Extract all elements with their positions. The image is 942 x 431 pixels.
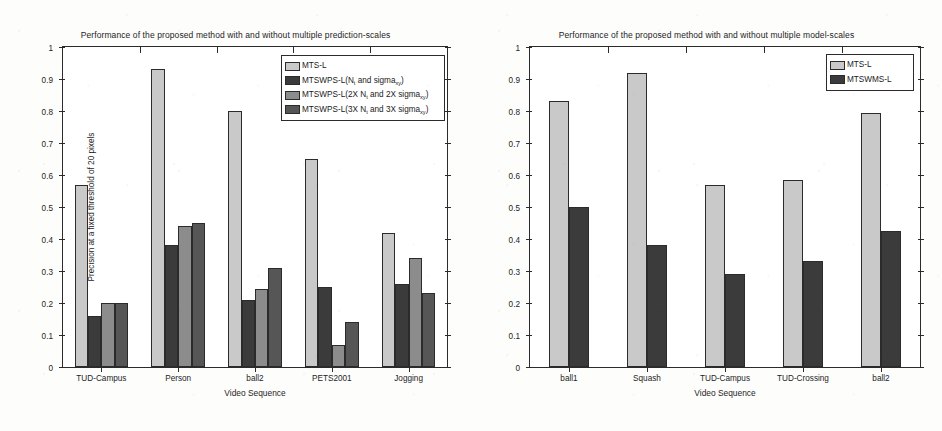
y-tick-mirror [445,367,451,368]
y-tick-label: 1 [515,44,520,53]
y-tick: 0.5 [526,207,532,208]
bar [332,345,345,367]
y-tick-mirror [445,175,451,176]
x-tick-label: ball1 [560,374,577,383]
y-tick: 0.3 [526,271,532,272]
legend-swatch-icon [830,75,845,84]
y-tick-mirror [918,335,924,336]
y-tick: 0.3 [59,271,65,272]
y-tick: 0.7 [59,143,65,144]
x-axis-label-right: Video Sequence [694,388,755,398]
bar [725,274,745,367]
y-tick-mirror [445,111,451,112]
x-tick-label: Jogging [394,374,423,383]
y-tick-mirror [918,367,924,368]
bar [268,268,281,367]
bar [549,101,569,367]
bar [422,293,435,367]
x-axis-label-left: Video Sequence [224,388,285,398]
y-tick: 0.2 [59,303,65,304]
y-tick-mirror [918,111,924,112]
y-tick-label: 0.7 [509,140,520,149]
y-tick: 0.7 [526,143,532,144]
bar [647,245,667,367]
y-tick: 0.4 [526,239,532,240]
legend-label: MTS-L [847,61,872,69]
x-tick-top [686,47,687,53]
bar [305,159,318,367]
legend-label: MTS-L [302,62,327,70]
y-tick-mirror [918,79,924,80]
bar [318,287,331,367]
y-tick-mirror [918,303,924,304]
y-tick: 0.2 [526,303,532,304]
x-tick-label: TUD-Campus [76,374,126,383]
bar [151,69,164,367]
x-tick-label: PETS2001 [312,374,352,383]
y-tick-label: 0.2 [42,300,53,309]
y-tick: 0.4 [59,239,65,240]
legend-swatch-icon [285,76,300,85]
y-tick-mirror [918,143,924,144]
bar [192,223,205,367]
chart-title-right: Performance of the proposed method with … [471,30,942,40]
bar [345,322,358,367]
legend-item[interactable]: MTS-L [285,59,440,74]
y-tick-mirror [445,271,451,272]
y-tick-label: 0.7 [42,140,53,149]
y-tick-mirror [918,47,924,48]
y-tick-mirror [445,239,451,240]
x-tick-top [608,47,609,53]
legend-swatch-icon [285,105,300,114]
y-tick-label: 0.8 [509,108,520,117]
y-tick-label: 0.8 [42,108,53,117]
legend-item[interactable]: MTSWMS-L [830,73,909,88]
legend-item[interactable]: MTS-L [830,58,909,73]
x-tick-label: Squash [633,374,661,383]
y-tick-mirror [445,335,451,336]
y-tick-mirror [445,47,451,48]
legend-item[interactable]: MTSWPS-L(3X Nt and 3X sigmaxy) [285,103,440,118]
bar [101,303,114,367]
legend-label: MTSWMS-L [847,76,892,84]
x-tick-top [842,47,843,53]
y-tick-mirror [918,271,924,272]
bar [88,316,101,367]
y-tick-label: 0.4 [42,236,53,245]
bar [881,231,901,367]
bar [627,73,647,367]
bar [165,245,178,367]
x-tick-top [764,47,765,53]
y-tick-mirror [445,303,451,304]
figure-page: Performance of the proposed method with … [0,0,942,431]
y-tick-label: 0.5 [509,204,520,213]
x-tick-label: Person [165,374,191,383]
y-tick-label: 0.1 [509,332,520,341]
y-tick-label: 0.3 [509,268,520,277]
y-tick-label: 0 [48,364,53,373]
legend-label: MTSWPS-L(2X Nt and 2X sigmaxy) [302,91,428,99]
x-tick-label: ball2 [872,374,889,383]
y-tick-label: 0.9 [509,76,520,85]
y-axis-label-left: Precision at a fixed threshold of 20 pix… [87,133,96,282]
bar [242,300,255,367]
y-tick: 0.5 [59,207,65,208]
legend-label: MTSWPS-L(Nt and sigmaxy) [302,77,404,85]
legend-label: MTSWPS-L(3X Nt and 3X sigmaxy) [302,106,428,114]
legend-left: MTS-LMTSWPS-L(Nt and sigmaxy)MTSWPS-L(2X… [281,55,445,121]
y-tick-label: 0.3 [42,268,53,277]
bar [228,111,241,367]
bar [409,258,422,367]
chart-panel-model-scales: Performance of the proposed method with … [471,0,942,431]
x-tick-label: TUD-Campus [700,374,750,383]
legend-item[interactable]: MTSWPS-L(Nt and sigmaxy) [285,74,440,89]
y-tick-label: 0.6 [509,172,520,181]
y-tick-mirror [918,239,924,240]
y-tick: 1 [526,47,532,48]
bar [382,233,395,367]
chart-panel-prediction-scales: Performance of the proposed method with … [0,0,471,431]
y-tick: 0.8 [59,111,65,112]
y-tick-label: 0 [515,364,520,373]
bar [395,284,408,367]
legend-item[interactable]: MTSWPS-L(2X Nt and 2X sigmaxy) [285,88,440,103]
